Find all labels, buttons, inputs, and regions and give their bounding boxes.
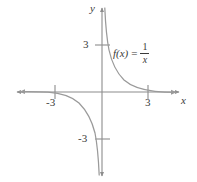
y-axis-label: y [90,3,95,14]
x-tick-label-positive-3: 3 [145,97,151,108]
equals-sign: = [131,48,137,59]
plot-canvas [0,0,197,182]
x-axis-label: x [181,95,186,106]
fraction-one-over-x: 1 x [140,42,149,65]
function-graph-figure: -3 3 3 -3 x y f(x) = 1 x [0,0,197,182]
y-tick-label-negative-3: -3 [78,133,87,144]
function-name: f(x) [113,48,128,59]
function-equation-label: f(x) = 1 x [113,42,149,65]
curve-branch-negative [20,92,99,175]
y-tick-label-positive-3: 3 [83,39,89,50]
fraction-numerator: 1 [140,42,149,53]
x-tick-label-negative-3: -3 [46,97,55,108]
fraction-denominator: x [141,54,149,65]
